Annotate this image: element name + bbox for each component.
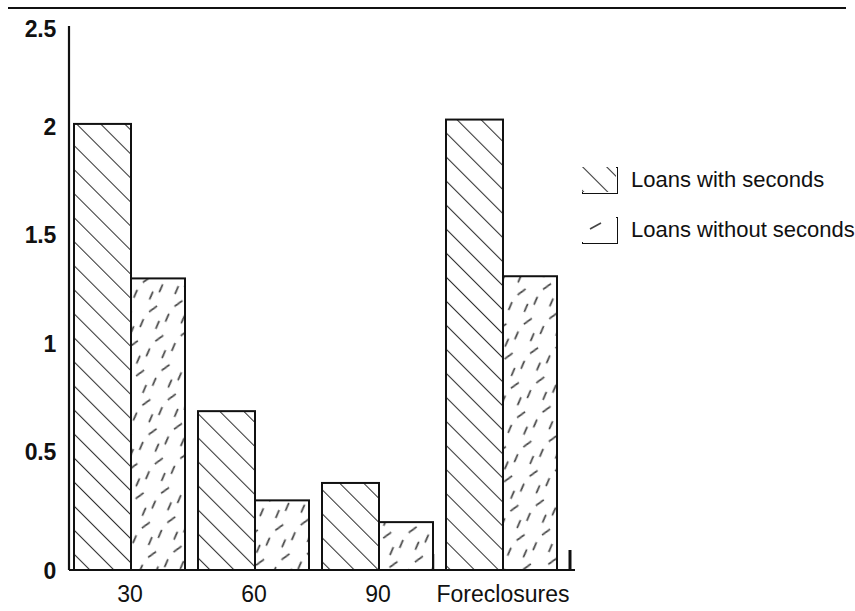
x-category-label-foreclosures: Foreclosures — [428, 581, 578, 608]
legend-swatch-sparse-dash-icon — [582, 217, 618, 244]
legend-item-loans-with-seconds: Loans with seconds — [582, 160, 847, 200]
bar-foreclosures-with-seconds — [446, 120, 503, 570]
legend-label-loans-with-seconds: Loans with seconds — [631, 167, 824, 193]
bar-30-with-seconds — [74, 124, 131, 570]
x-category-label-60: 60 — [214, 581, 294, 608]
y-tick-label-0-5: 0.5 — [0, 439, 56, 466]
y-tick-label-0: 0 — [0, 558, 56, 585]
chart-legend: Loans with seconds Loans without seconds — [582, 160, 847, 260]
bar-group-foreclosures — [446, 120, 557, 570]
bar-30-without-seconds — [131, 278, 185, 570]
legend-swatch-dense-hatch-icon — [582, 167, 618, 194]
bar-60-with-seconds — [198, 411, 255, 570]
y-tick-label-1: 1 — [0, 331, 56, 358]
x-category-label-90: 90 — [338, 581, 418, 608]
legend-item-loans-without-seconds: Loans without seconds — [582, 210, 847, 250]
legend-label-loans-without-seconds: Loans without seconds — [631, 217, 855, 243]
bar-group-90 — [322, 483, 433, 570]
x-category-label-30: 30 — [90, 581, 170, 608]
bar-group-60 — [198, 411, 309, 570]
bar-90-without-seconds — [379, 522, 433, 570]
bar-90-with-seconds — [322, 483, 379, 570]
bar-60-without-seconds — [255, 500, 309, 570]
y-tick-label-2-5: 2.5 — [0, 16, 56, 43]
y-tick-label-1-5: 1.5 — [0, 222, 56, 249]
bar-group-30 — [74, 124, 185, 570]
bar-foreclosures-without-seconds — [503, 276, 557, 570]
y-tick-label-2: 2 — [0, 114, 56, 141]
